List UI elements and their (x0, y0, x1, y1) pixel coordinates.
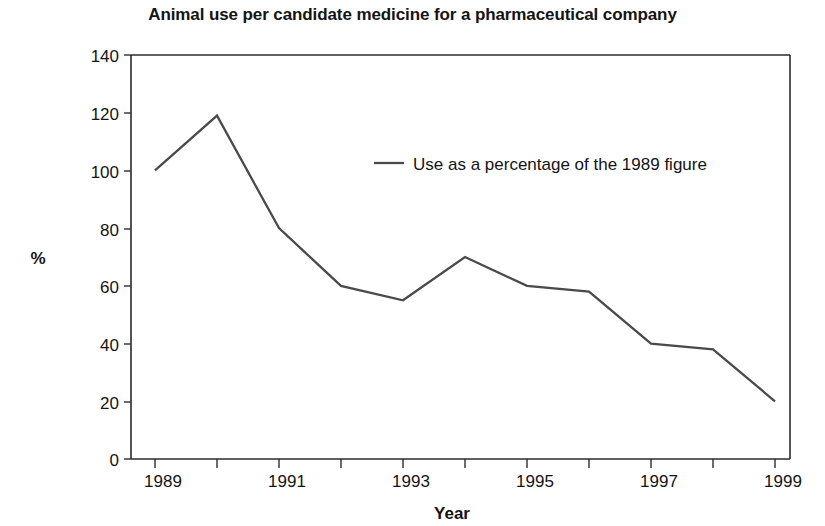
y-tick-label-100: 100 (91, 163, 119, 182)
x-tick-label-1993: 1993 (392, 472, 430, 491)
chart-figure: % Year 140 120 100 80 60 40 20 0 (0, 0, 825, 526)
y-axis-title: % (30, 249, 45, 268)
y-tick-label-80: 80 (100, 221, 119, 240)
x-tick-label-1995: 1995 (516, 472, 554, 491)
chart-legend: Use as a percentage of the 1989 figure (374, 155, 707, 174)
x-axis-title: Year (434, 504, 470, 523)
y-tick-label-60: 60 (100, 278, 119, 297)
y-tick-label-40: 40 (100, 336, 119, 355)
y-tick-label-120: 120 (91, 105, 119, 124)
legend-label: Use as a percentage of the 1989 figure (413, 155, 707, 174)
y-tick-label-0: 0 (110, 451, 119, 470)
x-tick-label-1989: 1989 (144, 472, 182, 491)
x-tick-label-1991: 1991 (268, 472, 306, 491)
y-tick-label-20: 20 (100, 394, 119, 413)
line-chart-svg: % Year 140 120 100 80 60 40 20 0 (0, 0, 825, 526)
x-tick-label-1999: 1999 (764, 472, 802, 491)
x-tick-label-1997: 1997 (640, 472, 678, 491)
y-tick-label-140: 140 (91, 47, 119, 66)
chart-page: Animal use per candidate medicine for a … (0, 0, 825, 526)
